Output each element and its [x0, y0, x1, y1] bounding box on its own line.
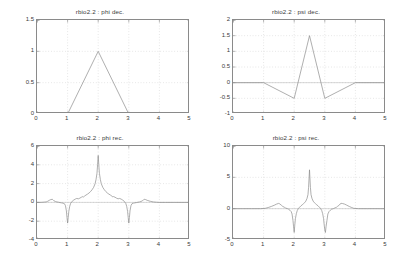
x-tick-label: 0 [34, 241, 37, 247]
panel-psi-rec: rbio2.2 : psi rec. -50510 012345 [200, 134, 392, 260]
x-tick-label: 3 [126, 115, 129, 121]
y-tick-label: -0.5 [220, 94, 230, 100]
x-tick-label: 4 [157, 241, 160, 247]
y-axis-ticks-psi-dec: -1-0.500.511.52 [214, 19, 230, 113]
y-tick-label: 0 [31, 198, 34, 204]
y-axis-ticks-phi-dec: 00.511.5 [18, 19, 34, 113]
x-axis-ticks-phi-dec: 012345 [36, 115, 189, 125]
x-tick-label: 2 [292, 115, 295, 121]
y-tick-label: -5 [225, 236, 230, 242]
data-curve [37, 51, 189, 113]
y-tick-label: 0 [227, 205, 230, 211]
x-tick-label: 4 [353, 241, 356, 247]
x-tick-label: 3 [322, 241, 325, 247]
y-tick-label: 0 [227, 79, 230, 85]
x-tick-label: 5 [187, 241, 190, 247]
y-tick-label: -2 [29, 217, 34, 223]
y-tick-label: 5 [227, 173, 230, 179]
wavelet-figure: rbio2.2 : phi dec. 00.511.5 012345 rbio2… [0, 0, 396, 265]
x-tick-label: 0 [230, 115, 233, 121]
x-tick-label: 0 [230, 241, 233, 247]
x-tick-label: 4 [157, 115, 160, 121]
plot-area-phi-dec [36, 19, 189, 113]
x-tick-label: 1 [261, 115, 264, 121]
x-tick-label: 2 [292, 241, 295, 247]
plot-svg-phi-rec [37, 146, 189, 239]
panel-title-phi-dec: rbio2.2 : phi dec. [4, 8, 196, 15]
x-tick-label: 5 [383, 115, 386, 121]
y-tick-label: 0.5 [222, 63, 230, 69]
x-tick-label: 2 [96, 115, 99, 121]
x-axis-ticks-phi-rec: 012345 [36, 241, 189, 251]
y-tick-label: 2 [227, 16, 230, 22]
x-axis-ticks-psi-dec: 012345 [232, 115, 385, 125]
panel-psi-dec: rbio2.2 : psi dec. -1-0.500.511.52 01234… [200, 8, 392, 130]
plot-area-psi-dec [232, 19, 385, 113]
y-axis-ticks-phi-rec: -4-20246 [18, 145, 34, 239]
plot-area-phi-rec [36, 145, 189, 239]
y-tick-label: 6 [31, 142, 34, 148]
x-tick-label: 0 [34, 115, 37, 121]
panel-title-psi-dec: rbio2.2 : psi dec. [200, 8, 392, 15]
data-curve [37, 155, 189, 223]
x-tick-label: 1 [261, 241, 264, 247]
x-tick-label: 1 [65, 115, 68, 121]
x-tick-label: 3 [126, 241, 129, 247]
y-tick-label: -4 [29, 236, 34, 242]
plot-svg-psi-dec [233, 20, 385, 113]
x-tick-label: 3 [322, 115, 325, 121]
x-tick-label: 1 [65, 241, 68, 247]
x-tick-label: 5 [383, 241, 386, 247]
x-tick-label: 4 [353, 115, 356, 121]
y-tick-label: 0.5 [26, 79, 34, 85]
plot-area-psi-rec [232, 145, 385, 239]
y-tick-label: 1 [227, 47, 230, 53]
y-tick-label: 1 [31, 47, 34, 53]
y-tick-label: 1.5 [222, 32, 230, 38]
y-axis-ticks-psi-rec: -50510 [214, 145, 230, 239]
y-tick-label: 1.5 [26, 16, 34, 22]
x-tick-label: 2 [96, 241, 99, 247]
plot-svg-psi-rec [233, 146, 385, 239]
data-curve [233, 170, 385, 233]
panel-title-psi-rec: rbio2.2 : psi rec. [200, 134, 392, 141]
panel-phi-dec: rbio2.2 : phi dec. 00.511.5 012345 [4, 8, 196, 130]
y-tick-label: -1 [225, 110, 230, 116]
panel-phi-rec: rbio2.2 : phi rec. -4-20246 012345 [4, 134, 196, 260]
y-tick-label: 2 [31, 180, 34, 186]
x-axis-ticks-psi-rec: 012345 [232, 241, 385, 251]
y-tick-label: 10 [223, 142, 230, 148]
panel-title-phi-rec: rbio2.2 : phi rec. [4, 134, 196, 141]
x-tick-label: 5 [187, 115, 190, 121]
y-tick-label: 4 [31, 161, 34, 167]
plot-svg-phi-dec [37, 20, 189, 113]
